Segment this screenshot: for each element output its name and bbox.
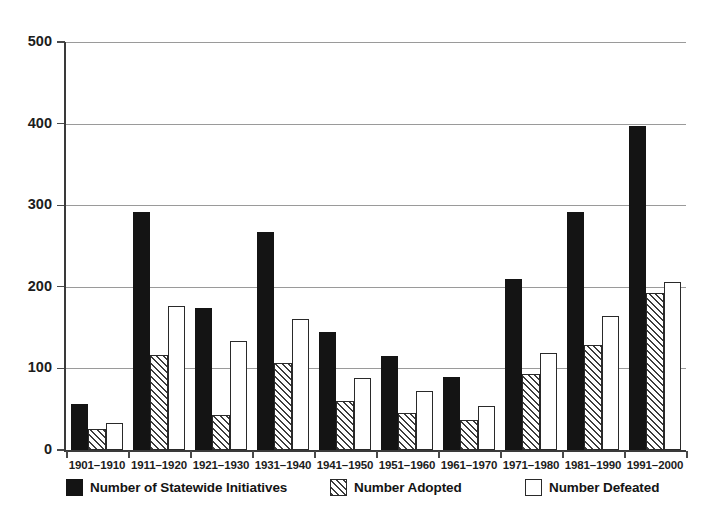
legend-item-label: Number of Statewide Initiatives (90, 480, 287, 495)
bar-group (381, 42, 434, 450)
bar-total (629, 126, 647, 450)
bar-defeated (602, 316, 620, 450)
bar-adopted (460, 420, 478, 450)
x-axis-label: 1961–1970 (438, 459, 500, 471)
bar-defeated (292, 319, 310, 450)
bar-defeated (478, 406, 496, 450)
x-tick (252, 451, 254, 458)
x-tick (314, 451, 316, 458)
x-axis-label: 1951–1960 (376, 459, 438, 471)
plot-area (66, 42, 686, 450)
x-axis-line (64, 450, 686, 452)
x-axis-label: 1991–2000 (624, 459, 686, 471)
bar-adopted (88, 429, 106, 450)
bar-adopted (336, 401, 354, 450)
bar-group (443, 42, 496, 450)
chart-legend: Number of Statewide InitiativesNumber Ad… (0, 479, 727, 505)
bar-total (133, 212, 151, 450)
y-axis-label: 100 (4, 359, 52, 375)
legend-item[interactable]: Number Defeated (525, 479, 659, 496)
bar-adopted (150, 355, 168, 450)
y-axis-label: 300 (4, 196, 52, 212)
x-axis-label: 1981–1990 (562, 459, 624, 471)
y-axis-label: 0 (4, 441, 52, 457)
bar-total (381, 356, 399, 450)
bar-group (195, 42, 248, 450)
bar-defeated (106, 423, 124, 450)
bar-group (257, 42, 310, 450)
bar-total (71, 404, 89, 450)
bar-total (195, 308, 213, 450)
white-outline-swatch (525, 479, 542, 496)
x-tick (438, 451, 440, 458)
x-axis-label: 1901–1910 (66, 459, 128, 471)
bar-defeated (168, 306, 186, 450)
bar-adopted (584, 345, 602, 450)
y-axis-label: 400 (4, 115, 52, 131)
bar-group (71, 42, 124, 450)
bar-defeated (354, 378, 372, 450)
bar-group (505, 42, 558, 450)
x-tick (500, 451, 502, 458)
x-axis-label: 1921–1930 (190, 459, 252, 471)
bar-defeated (230, 341, 248, 450)
x-axis-label: 1911–1920 (128, 459, 190, 471)
x-tick (66, 451, 68, 458)
bar-adopted (398, 413, 416, 450)
bar-total (443, 377, 461, 450)
bar-adopted (212, 415, 230, 450)
bar-group (629, 42, 682, 450)
legend-item[interactable]: Number Adopted (330, 479, 462, 496)
bar-defeated (664, 282, 682, 450)
bar-adopted (646, 293, 664, 450)
bar-defeated (540, 353, 558, 450)
x-axis-label: 1931–1940 (252, 459, 314, 471)
solid-black-swatch (66, 479, 83, 496)
bar-group (133, 42, 186, 450)
x-tick (190, 451, 192, 458)
x-tick (376, 451, 378, 458)
bar-total (567, 212, 585, 450)
bar-group (319, 42, 372, 450)
hatched-swatch (330, 479, 347, 496)
x-axis-label: 1971–1980 (500, 459, 562, 471)
y-axis-label: 200 (4, 278, 52, 294)
bar-defeated (416, 391, 434, 450)
x-axis-label: 1941–1950 (314, 459, 376, 471)
x-tick (686, 451, 688, 458)
y-axis-label: 500 (4, 33, 52, 49)
legend-item[interactable]: Number of Statewide Initiatives (66, 479, 287, 496)
bar-adopted (274, 363, 292, 450)
x-tick (624, 451, 626, 458)
bar-total (505, 279, 523, 450)
x-tick (128, 451, 130, 458)
legend-item-label: Number Adopted (354, 480, 462, 495)
bar-chart: 0100200300400500 1901–19101911–19201921–… (0, 0, 727, 518)
legend-item-label: Number Defeated (549, 480, 659, 495)
bar-total (257, 232, 275, 450)
bar-adopted (522, 374, 540, 450)
bar-total (319, 332, 337, 450)
x-tick (562, 451, 564, 458)
bar-group (567, 42, 620, 450)
